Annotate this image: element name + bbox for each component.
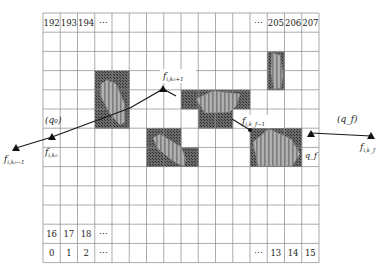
cell-index: ⋯	[254, 248, 263, 258]
cell-index: 17	[63, 229, 74, 239]
path-segment-goal	[311, 133, 371, 136]
cell-index: ⋯	[99, 18, 108, 28]
cell-index: 192	[44, 18, 60, 28]
cell-index: 13	[270, 248, 281, 258]
node-f-k0-plus1-icon	[159, 85, 167, 92]
cell-index: ⋯	[99, 248, 108, 258]
cell-index: ⋯	[254, 18, 263, 28]
cell-index: 206	[285, 18, 301, 28]
cell-index: 207	[302, 18, 318, 28]
cell-index: 14	[288, 248, 299, 258]
cell-index: 16	[46, 229, 57, 239]
label-q0: (q₀)	[45, 115, 62, 125]
label-qf: (q_f)	[337, 114, 358, 125]
cell-index: 1	[66, 248, 71, 258]
cell-index: 0	[49, 248, 54, 258]
obstacle-3-cell	[181, 90, 199, 110]
cell-index: ⋯	[99, 229, 108, 239]
cell-index: 15	[305, 248, 316, 258]
cell-index: 2	[83, 248, 88, 258]
cell-index: 194	[78, 18, 94, 28]
path-planning-grid-diagram: 192193194⋯⋯205206207161718⋯012⋯⋯131415 (…	[0, 0, 383, 272]
label-f-k0: fi,k₀	[44, 147, 58, 158]
node-f-kf-minus1-icon	[248, 128, 252, 132]
label-f-k0-minus1: fi,k₀−1	[3, 154, 25, 165]
label-f-kf: fi,k_f	[359, 142, 376, 154]
cell-index: 193	[61, 18, 77, 28]
cell-index: 205	[268, 18, 284, 28]
cell-index: 18	[81, 229, 92, 239]
label-qf-cell: q_f	[305, 151, 319, 160]
